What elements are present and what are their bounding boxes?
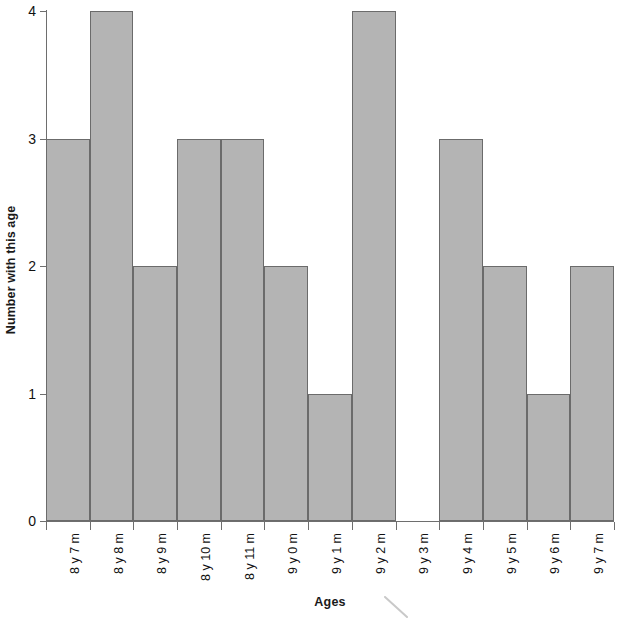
- bar: [221, 139, 265, 522]
- x-tick-label-text: 9 y 4 m: [461, 533, 475, 574]
- x-tick-mark: [483, 522, 484, 530]
- x-tick-mark: [90, 522, 91, 530]
- x-tick-label-text: 8 y 8 m: [112, 533, 126, 574]
- x-tick-label-text: 8 y 10 m: [199, 533, 213, 581]
- x-tick-mark: [527, 522, 528, 530]
- x-tick-mark: [264, 522, 265, 530]
- x-tick-label-text: 9 y 6 m: [548, 533, 562, 574]
- x-tick-mark: [570, 522, 571, 530]
- x-tick-label-text: 8 y 11 m: [243, 533, 257, 580]
- x-tick-label: 8 y 10 m: [192, 533, 206, 593]
- x-tick-mark: [133, 522, 134, 530]
- histogram-chart: Number with this age 01234 8 y 7 m8 y 8 …: [0, 0, 619, 621]
- x-tick-label-text: 9 y 5 m: [505, 533, 519, 574]
- x-tick-label-text: 8 y 7 m: [68, 533, 82, 574]
- bar: [90, 11, 134, 521]
- bar: [352, 11, 396, 521]
- x-tick-label: 9 y 7 m: [585, 533, 599, 593]
- x-tick-label-text: 9 y 3 m: [417, 533, 431, 574]
- x-tick-mark: [46, 522, 47, 530]
- x-tick-mark: [352, 522, 353, 530]
- bar: [308, 394, 352, 522]
- x-tick-mark: [221, 522, 222, 530]
- x-tick-label: 8 y 7 m: [61, 533, 75, 593]
- x-tick-label: 9 y 3 m: [410, 533, 424, 593]
- x-tick-label-text: 8 y 9 m: [155, 533, 169, 574]
- x-tick-label: 8 y 11 m: [236, 533, 250, 593]
- x-tick-label-text: 9 y 2 m: [374, 533, 388, 574]
- x-tick-mark: [439, 522, 440, 530]
- x-tick-label: 8 y 8 m: [105, 533, 119, 593]
- x-tick-label-text: 9 y 7 m: [592, 533, 606, 574]
- x-tick-mark: [396, 522, 397, 530]
- bar: [483, 266, 527, 521]
- x-tick-label: 9 y 0 m: [279, 533, 293, 593]
- x-tick-label: 9 y 6 m: [541, 533, 555, 593]
- x-tick-mark: [614, 522, 615, 530]
- x-tick-mark: [308, 522, 309, 530]
- bar: [133, 266, 177, 521]
- x-tick-label: 9 y 4 m: [454, 533, 468, 593]
- x-tick-label: 9 y 5 m: [498, 533, 512, 593]
- bar: [570, 266, 614, 521]
- x-tick-mark: [177, 522, 178, 530]
- bar: [527, 394, 571, 522]
- x-tick-label-text: 9 y 1 m: [330, 533, 344, 574]
- x-tick-label-text: 9 y 0 m: [286, 533, 300, 574]
- bar: [46, 139, 90, 522]
- bar: [264, 266, 308, 521]
- bar: [439, 139, 483, 522]
- x-tick-label: 9 y 2 m: [367, 533, 381, 593]
- x-tick-label: 9 y 1 m: [323, 533, 337, 593]
- bar: [177, 139, 221, 522]
- x-axis-title: Ages: [46, 595, 614, 609]
- x-tick-label: 8 y 9 m: [148, 533, 162, 593]
